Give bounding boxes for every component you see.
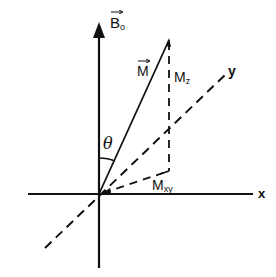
mxy-label-sub: xy — [164, 184, 173, 194]
magnetization-vector-diagram: B o M Mz Mxy θ x y — [0, 0, 276, 277]
vector-arrow-icon — [138, 59, 150, 63]
theta-label: θ — [103, 136, 113, 152]
theta-arc — [99, 158, 115, 161]
b0-label-sub: o — [120, 22, 125, 32]
m-label: M — [137, 64, 149, 78]
mz-label-main: M — [174, 69, 186, 85]
mxy-arrowhead-icon — [101, 188, 111, 194]
b0-label-main: B — [110, 14, 120, 31]
mxy-label: Mxy — [152, 178, 173, 194]
mz-label: Mz — [174, 70, 190, 86]
mxy-label-main: M — [152, 177, 164, 193]
mxy-corner-tick — [160, 171, 169, 174]
y-axis-label: y — [228, 64, 236, 78]
vector-arrow-icon — [111, 10, 123, 14]
diagram-canvas — [0, 0, 276, 277]
b0-arrowhead-icon — [93, 22, 105, 38]
b0-label: B o — [110, 15, 125, 32]
y-axis — [45, 74, 226, 248]
x-axis-label: x — [258, 187, 265, 200]
mz-label-sub: z — [186, 76, 191, 86]
m-vector — [99, 40, 169, 194]
m-label-main: M — [137, 63, 149, 79]
